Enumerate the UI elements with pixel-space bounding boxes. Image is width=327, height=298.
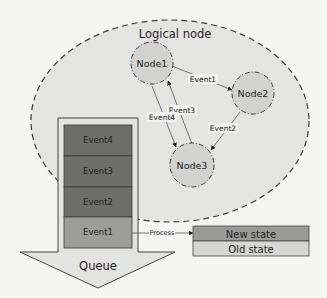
svg-text:Event4: Event4 [83, 135, 113, 145]
svg-text:Event3: Event3 [83, 166, 113, 176]
svg-text:Event2: Event2 [210, 124, 236, 133]
edge-label-event4: Event4 [147, 112, 177, 122]
edge-label-event1: Event1 [188, 74, 218, 84]
svg-text:Node1: Node1 [137, 58, 168, 69]
queue-item-event1: Event1 [64, 217, 132, 248]
diagram-canvas: Logical node Event1 Event2 Event3 Event4… [0, 0, 327, 298]
queue-item-event2: Event2 [64, 187, 132, 217]
node-2: Node2 [232, 72, 274, 114]
node-3: Node3 [170, 143, 214, 187]
svg-text:Old state: Old state [228, 244, 274, 255]
node-1: Node1 [131, 42, 173, 84]
svg-text:Event1: Event1 [190, 75, 216, 84]
svg-text:Node3: Node3 [177, 160, 208, 171]
new-state-box: New state [193, 226, 309, 241]
queue-item-event3: Event3 [64, 156, 132, 187]
svg-text:Event1: Event1 [83, 227, 113, 237]
edge-label-event2: Event2 [208, 123, 238, 133]
old-state-box: Old state [193, 241, 309, 256]
svg-text:Event4: Event4 [149, 113, 175, 122]
svg-text:Node2: Node2 [238, 88, 269, 99]
svg-text:New state: New state [226, 229, 276, 240]
queue-item-event4: Event4 [64, 125, 132, 156]
process-label: Process [149, 228, 175, 237]
svg-text:Process: Process [150, 229, 175, 237]
svg-text:Event2: Event2 [83, 197, 113, 207]
queue-label: Queue [79, 259, 117, 273]
logical-node-label: Logical node [139, 27, 212, 41]
